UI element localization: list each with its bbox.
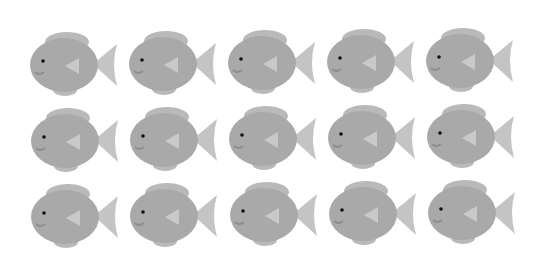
fish-grid (0, 0, 544, 271)
fish-icon (226, 102, 318, 174)
fish-r1-c0 (28, 104, 120, 176)
fish-icon (27, 28, 119, 100)
fish-icon (225, 26, 317, 98)
fish-icon (28, 104, 120, 176)
fish-icon (424, 100, 516, 172)
fish-r0-c1 (126, 27, 218, 99)
fish-r1-c3 (325, 101, 417, 173)
fish-r2-c4 (425, 176, 517, 248)
fish-icon (325, 101, 417, 173)
fish-icon (326, 177, 418, 249)
fish-r2-c3 (326, 177, 418, 249)
fish-r1-c1 (127, 103, 219, 175)
fish-r0-c0 (27, 28, 119, 100)
fish-icon (227, 178, 319, 250)
fish-icon (126, 27, 218, 99)
fish-icon (28, 180, 120, 252)
fish-r2-c1 (127, 179, 219, 251)
fish-r2-c2 (227, 178, 319, 250)
fish-r1-c4 (424, 100, 516, 172)
fish-r1-c2 (226, 102, 318, 174)
fish-r2-c0 (28, 180, 120, 252)
fish-icon (127, 179, 219, 251)
fish-icon (423, 24, 515, 96)
fish-r0-c3 (324, 25, 416, 97)
fish-r0-c2 (225, 26, 317, 98)
fish-icon (127, 103, 219, 175)
fish-r0-c4 (423, 24, 515, 96)
fish-icon (324, 25, 416, 97)
fish-icon (425, 176, 517, 248)
